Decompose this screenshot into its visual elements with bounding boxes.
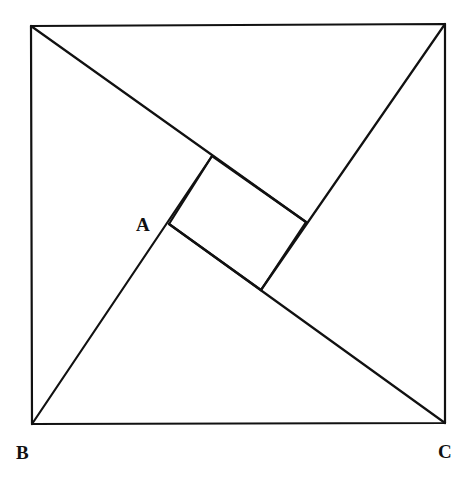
canvas-background — [0, 0, 473, 483]
vertex-label-a: A — [136, 214, 150, 235]
vertex-label-b: B — [16, 442, 29, 463]
geometry-diagram: A B C — [0, 0, 473, 483]
vertex-label-c: C — [438, 441, 452, 462]
